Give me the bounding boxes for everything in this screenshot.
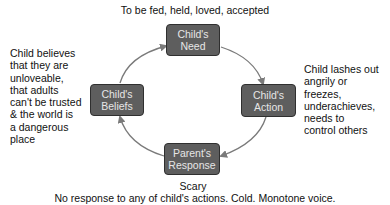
node-label: Child's [242, 89, 295, 101]
response-caption-detail: No response to any of child's actions. C… [40, 192, 350, 204]
node-label: Response [165, 159, 219, 171]
arrow-action-to-response [221, 117, 266, 156]
arrow-need-to-action [221, 47, 263, 84]
node-label: Need [167, 40, 219, 52]
need-caption: To be fed, held, loved, accepted [115, 4, 275, 16]
node-label: Parent's [165, 147, 219, 159]
node-label: Beliefs [91, 100, 143, 112]
node-childs-need: Child's Need [166, 24, 220, 56]
action-caption: Child lashes out angrily or freezes, und… [304, 63, 390, 137]
beliefs-caption: Child believes that they are unloveable,… [10, 47, 95, 145]
arrow-beliefs-to-need [120, 46, 166, 83]
node-childs-beliefs: Child's Beliefs [90, 84, 144, 116]
response-caption-title: Scary [168, 180, 218, 192]
node-childs-action: Child's Action [241, 84, 296, 117]
node-label: Action [242, 101, 295, 113]
node-label: Child's [167, 28, 219, 40]
node-parents-response: Parent's Response [164, 143, 220, 175]
node-label: Child's [91, 88, 143, 100]
arrow-response-to-beliefs [120, 117, 164, 156]
